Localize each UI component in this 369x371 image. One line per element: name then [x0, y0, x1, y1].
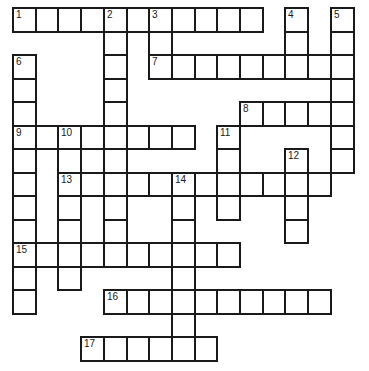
crossword-cell[interactable] [239, 172, 264, 197]
crossword-cell[interactable] [216, 54, 241, 80]
crossword-cell[interactable] [148, 242, 173, 268]
crossword-cell[interactable] [171, 219, 196, 244]
crossword-cell[interactable] [194, 242, 218, 268]
crossword-cell[interactable] [216, 195, 241, 221]
crossword-cell[interactable] [57, 219, 82, 244]
crossword-cell[interactable] [171, 7, 196, 33]
crossword-cell[interactable] [307, 172, 332, 197]
crossword-cell[interactable] [216, 148, 241, 174]
crossword-cell[interactable] [103, 101, 128, 127]
crossword-cell[interactable] [330, 101, 355, 127]
crossword-cell[interactable] [171, 336, 196, 362]
crossword-cell[interactable]: 5 [330, 7, 355, 33]
crossword-cell[interactable] [57, 148, 82, 174]
crossword-cell[interactable] [103, 195, 128, 221]
crossword-cell[interactable] [103, 78, 128, 103]
crossword-cell[interactable] [35, 125, 59, 150]
crossword-cell[interactable] [216, 172, 241, 197]
crossword-cell[interactable] [284, 289, 309, 315]
crossword-cell[interactable] [216, 242, 241, 268]
crossword-cell[interactable] [35, 242, 59, 268]
crossword-cell[interactable]: 10 [57, 125, 82, 150]
crossword-cell[interactable] [126, 289, 150, 315]
crossword-cell[interactable] [330, 54, 355, 80]
crossword-cell[interactable]: 8 [239, 101, 264, 127]
crossword-cell[interactable] [216, 289, 241, 315]
crossword-cell[interactable] [103, 54, 128, 80]
crossword-cell[interactable] [171, 313, 196, 338]
crossword-cell[interactable]: 11 [216, 125, 241, 150]
crossword-cell[interactable] [284, 195, 309, 221]
crossword-cell[interactable] [194, 336, 218, 362]
crossword-cell[interactable] [194, 172, 218, 197]
crossword-cell[interactable] [284, 172, 309, 197]
crossword-cell[interactable] [126, 172, 150, 197]
crossword-cell[interactable]: 12 [284, 148, 309, 174]
crossword-cell[interactable] [148, 172, 173, 197]
crossword-cell[interactable] [103, 336, 128, 362]
crossword-cell[interactable]: 14 [171, 172, 196, 197]
crossword-cell[interactable] [284, 54, 309, 80]
crossword-cell[interactable] [12, 172, 37, 197]
crossword-cell[interactable]: 2 [103, 7, 128, 33]
crossword-cell[interactable] [103, 172, 128, 197]
crossword-cell[interactable]: 3 [148, 7, 173, 33]
crossword-cell[interactable]: 6 [12, 54, 37, 80]
crossword-cell[interactable] [171, 54, 196, 80]
crossword-cell[interactable] [239, 54, 264, 80]
crossword-cell[interactable] [148, 336, 173, 362]
crossword-cell[interactable] [194, 289, 218, 315]
crossword-cell[interactable] [194, 54, 218, 80]
crossword-cell[interactable] [330, 148, 355, 174]
crossword-cell[interactable] [284, 101, 309, 127]
crossword-cell[interactable] [12, 101, 37, 127]
crossword-cell[interactable] [330, 78, 355, 103]
crossword-cell[interactable] [148, 31, 173, 56]
crossword-cell[interactable] [171, 125, 196, 150]
crossword-cell[interactable] [12, 289, 37, 315]
crossword-cell[interactable] [307, 54, 332, 80]
crossword-cell[interactable] [35, 7, 59, 33]
crossword-cell[interactable]: 7 [148, 54, 173, 80]
crossword-cell[interactable] [126, 336, 150, 362]
crossword-cell[interactable]: 16 [103, 289, 128, 315]
crossword-cell[interactable] [262, 54, 286, 80]
crossword-cell[interactable] [103, 31, 128, 56]
crossword-cell[interactable]: 13 [57, 172, 82, 197]
crossword-cell[interactable] [330, 31, 355, 56]
crossword-cell[interactable] [148, 125, 173, 150]
crossword-cell[interactable]: 15 [12, 242, 37, 268]
crossword-cell[interactable] [330, 125, 355, 150]
crossword-cell[interactable] [12, 148, 37, 174]
crossword-cell[interactable] [103, 219, 128, 244]
crossword-cell[interactable] [307, 101, 332, 127]
crossword-cell[interactable] [239, 7, 264, 33]
crossword-cell[interactable] [57, 266, 82, 291]
crossword-cell[interactable] [80, 125, 105, 150]
crossword-cell[interactable] [171, 266, 196, 291]
crossword-cell[interactable] [80, 172, 105, 197]
crossword-cell[interactable]: 9 [12, 125, 37, 150]
crossword-cell[interactable] [171, 195, 196, 221]
crossword-cell[interactable] [126, 242, 150, 268]
crossword-cell[interactable] [126, 125, 150, 150]
crossword-cell[interactable] [262, 289, 286, 315]
crossword-cell[interactable] [57, 242, 82, 268]
crossword-cell[interactable] [57, 195, 82, 221]
crossword-cell[interactable] [103, 125, 128, 150]
crossword-cell[interactable] [262, 101, 286, 127]
crossword-cell[interactable] [12, 219, 37, 244]
crossword-cell[interactable] [12, 195, 37, 221]
crossword-cell[interactable]: 17 [80, 336, 105, 362]
crossword-cell[interactable] [284, 31, 309, 56]
crossword-cell[interactable] [80, 242, 105, 268]
crossword-cell[interactable] [12, 266, 37, 291]
crossword-cell[interactable] [12, 78, 37, 103]
crossword-cell[interactable] [194, 7, 218, 33]
crossword-cell[interactable] [239, 289, 264, 315]
crossword-cell[interactable] [216, 7, 241, 33]
crossword-cell[interactable]: 4 [284, 7, 309, 33]
crossword-cell[interactable] [126, 7, 150, 33]
crossword-cell[interactable] [171, 242, 196, 268]
crossword-cell[interactable] [284, 219, 309, 244]
